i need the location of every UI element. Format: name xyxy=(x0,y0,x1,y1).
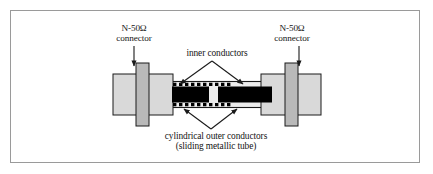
inner-conductor-right xyxy=(218,87,272,103)
label-left-connector: N-50Ω connector xyxy=(92,24,176,44)
label-right-connector-line2: connector xyxy=(250,34,334,44)
label-inner-conductors: inner conductors xyxy=(153,48,281,58)
inner-conductors-group xyxy=(172,87,272,103)
label-outer-conductors-line2: (sliding metallic tube) xyxy=(108,141,324,151)
inner-conductor-left xyxy=(172,87,209,103)
outer-leader-right-arm xyxy=(211,109,237,129)
label-right-connector: N-50Ω connector xyxy=(250,24,334,44)
outer-leader-left-arm xyxy=(184,109,211,129)
left-connector-flange xyxy=(136,63,149,126)
inner-leader-left-arm xyxy=(180,61,212,84)
outer-conductors-leader xyxy=(184,109,237,129)
label-outer-conductors: cylindrical outer conductors (sliding me… xyxy=(108,131,324,151)
left-connector-group xyxy=(113,63,173,126)
inner-leader-right-arm xyxy=(212,61,243,84)
figure-root: N-50Ω connector N-50Ω connector inner co… xyxy=(0,0,433,174)
inner-conductors-leader xyxy=(180,61,243,84)
label-outer-conductors-line1: cylindrical outer conductors xyxy=(108,131,324,141)
label-inner-conductors-line1: inner conductors xyxy=(153,48,281,58)
label-left-connector-line2: connector xyxy=(92,34,176,44)
right-connector-flange xyxy=(285,63,298,126)
